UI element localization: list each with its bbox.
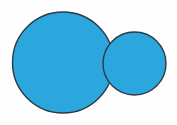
figure-canvas [0, 0, 177, 125]
circles-diagram [0, 0, 177, 125]
large-circle-shape [13, 12, 114, 113]
small-circle-shape [103, 32, 166, 95]
